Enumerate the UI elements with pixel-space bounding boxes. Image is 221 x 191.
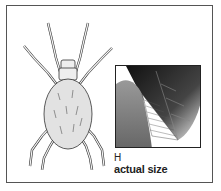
leaf-inset	[115, 65, 201, 148]
mite-illustration	[18, 18, 118, 170]
scale-mark: H	[114, 153, 121, 163]
caption: actual size	[114, 163, 167, 175]
